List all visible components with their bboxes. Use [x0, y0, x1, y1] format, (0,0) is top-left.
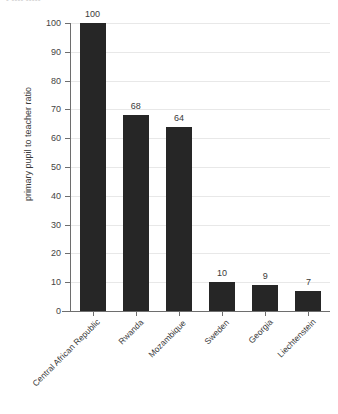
- x-axis-category-label: Georgia: [247, 318, 275, 346]
- y-axis-tick-mark: [65, 282, 71, 283]
- x-axis-category-label: Sweden: [203, 318, 231, 346]
- bar-chart: primary pupil to teacher ratio 010203040…: [0, 0, 338, 414]
- gridline: [71, 109, 330, 110]
- x-axis-tick-mark: [93, 312, 94, 316]
- x-axis-category-label: Central African Republic: [31, 318, 102, 389]
- gridline: [71, 23, 330, 24]
- y-axis-tick-label: 20: [51, 249, 61, 258]
- x-axis-tick-mark: [308, 312, 309, 316]
- y-axis-tick-mark: [65, 253, 71, 254]
- plot-area: [71, 23, 330, 311]
- y-axis-tick-label: 90: [51, 48, 61, 57]
- bar-value-label: 7: [288, 278, 328, 287]
- bar-value-label: 10: [202, 269, 242, 278]
- x-axis-category-label: Rwanda: [117, 318, 145, 346]
- x-axis-category-label: Mozambique: [147, 318, 188, 359]
- bar[interactable]: [252, 285, 278, 311]
- y-axis-tick-mark: [65, 52, 71, 53]
- y-axis-tick-label: 30: [51, 221, 61, 230]
- bar[interactable]: [209, 282, 235, 311]
- bar[interactable]: [166, 127, 192, 311]
- gridline: [71, 138, 330, 139]
- gridline: [71, 81, 330, 82]
- y-axis-tick-label: 80: [51, 77, 61, 86]
- bar[interactable]: [295, 291, 321, 311]
- y-axis-tick-mark: [65, 196, 71, 197]
- y-axis-tick-label: 100: [46, 19, 61, 28]
- bar-value-label: 68: [116, 102, 156, 111]
- y-axis-tick-mark: [65, 167, 71, 168]
- bar[interactable]: [123, 115, 149, 311]
- y-axis-tick-label: 70: [51, 105, 61, 114]
- y-axis-tick-mark: [65, 138, 71, 139]
- x-axis-category-label: Liechtenstein: [276, 318, 318, 360]
- x-axis-tick-mark: [179, 312, 180, 316]
- y-axis-tick-label: 50: [51, 163, 61, 172]
- x-axis-tick-mark: [222, 312, 223, 316]
- y-axis-tick-mark: [65, 109, 71, 110]
- gridline: [71, 52, 330, 53]
- gridline: [71, 253, 330, 254]
- y-axis-tick-label: 0: [56, 307, 61, 316]
- y-axis-tick-mark: [65, 225, 71, 226]
- y-axis-title: primary pupil to teacher ratio: [24, 0, 33, 288]
- bar-value-label: 9: [245, 272, 285, 281]
- y-axis-tick-mark: [65, 23, 71, 24]
- y-axis-tick-label: 60: [51, 134, 61, 143]
- gridline: [71, 196, 330, 197]
- bar[interactable]: [80, 23, 106, 311]
- x-axis-tick-mark: [265, 312, 266, 316]
- bar-value-label: 64: [159, 114, 199, 123]
- gridline: [71, 311, 330, 312]
- y-axis-tick-mark: [65, 311, 71, 312]
- x-axis-tick-mark: [136, 312, 137, 316]
- gridline: [71, 225, 330, 226]
- y-axis-tick-mark: [65, 81, 71, 82]
- gridline: [71, 167, 330, 168]
- bar-value-label: 100: [73, 10, 113, 19]
- y-axis-tick-label: 40: [51, 192, 61, 201]
- y-axis-tick-label: 10: [51, 278, 61, 287]
